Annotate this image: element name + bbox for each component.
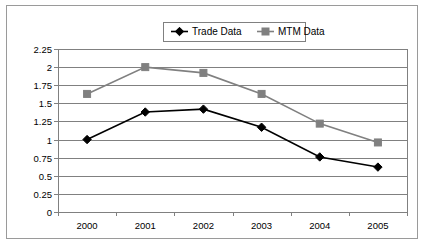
x-tick-label: 2004	[309, 220, 330, 231]
x-tick-label: 2000	[77, 220, 98, 231]
data-series-layer	[83, 64, 382, 172]
y-tick-label: 1	[47, 135, 52, 146]
x-tick-label: 2003	[251, 220, 272, 231]
series-trade-data	[83, 105, 382, 171]
diamond-marker-icon	[316, 153, 324, 161]
square-marker-icon	[258, 90, 265, 97]
y-axis-tick-labels: 00.250.50.7511.251.51.7522.25	[34, 44, 53, 218]
x-tick-label: 2005	[367, 220, 388, 231]
diamond-marker-icon	[83, 135, 91, 143]
square-marker-icon	[262, 28, 269, 35]
square-marker-icon	[374, 139, 381, 146]
y-tick-label: 0.25	[34, 189, 53, 200]
series-line	[87, 67, 378, 142]
diamond-marker-icon	[141, 108, 149, 116]
diamond-marker-icon	[257, 123, 265, 131]
y-tick-label: 2.25	[34, 44, 53, 55]
diamond-marker-icon	[374, 163, 382, 171]
legend-label: MTM Data	[278, 26, 325, 37]
x-tick-label: 2001	[135, 220, 156, 231]
square-marker-icon	[316, 120, 323, 127]
y-tick-label: 2	[47, 62, 52, 73]
chart-legend: Trade DataMTM Data	[164, 23, 326, 42]
y-tick-label: 0.5	[39, 171, 52, 182]
x-tick-label: 2002	[193, 220, 214, 231]
square-marker-icon	[84, 90, 91, 97]
square-marker-icon	[142, 64, 149, 71]
y-tick-label: 1.5	[39, 98, 52, 109]
line-chart: 00.250.50.7511.251.51.7522.25 2000200120…	[7, 6, 417, 238]
y-tick-label: 1.75	[34, 80, 53, 91]
chart-frame: 00.250.50.7511.251.51.7522.25 2000200120…	[6, 5, 418, 239]
series-mtm-data	[84, 64, 382, 146]
legend-label: Trade Data	[192, 26, 242, 37]
y-tick-label: 0	[47, 207, 52, 218]
y-tick-label: 0.75	[34, 153, 53, 164]
x-axis-tick-labels: 200020012002200320042005	[77, 220, 389, 231]
diamond-marker-icon	[199, 105, 207, 113]
square-marker-icon	[200, 69, 207, 76]
y-tick-label: 1.25	[34, 116, 53, 127]
